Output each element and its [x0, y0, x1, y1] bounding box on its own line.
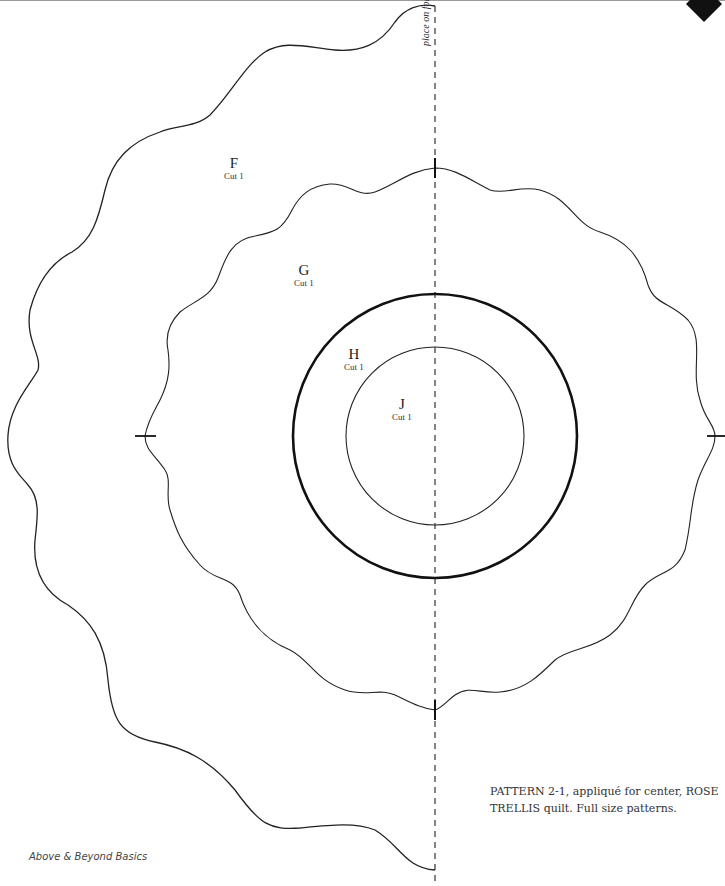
pattern-drawing	[0, 0, 725, 886]
piece-instruction: Cut 1	[214, 171, 254, 181]
piece-instruction: Cut 1	[284, 278, 324, 288]
piece-j-label: J Cut 1	[382, 397, 422, 422]
piece-instruction: Cut 1	[382, 412, 422, 422]
fold-label: place on fold	[420, 0, 431, 46]
piece-g-outline	[145, 168, 715, 710]
piece-letter: F	[214, 156, 254, 171]
pattern-caption: PATTERN 2-1, appliqué for center, ROSE T…	[490, 783, 725, 817]
piece-f-outline	[8, 5, 435, 870]
piece-instruction: Cut 1	[334, 362, 374, 372]
piece-letter: H	[334, 347, 374, 362]
piece-letter: G	[284, 263, 324, 278]
piece-h-label: H Cut 1	[334, 347, 374, 372]
piece-letter: J	[382, 397, 422, 412]
piece-f-label: F Cut 1	[214, 156, 254, 181]
book-footer: Above & Beyond Basics	[29, 851, 147, 862]
piece-g-label: G Cut 1	[284, 263, 324, 288]
